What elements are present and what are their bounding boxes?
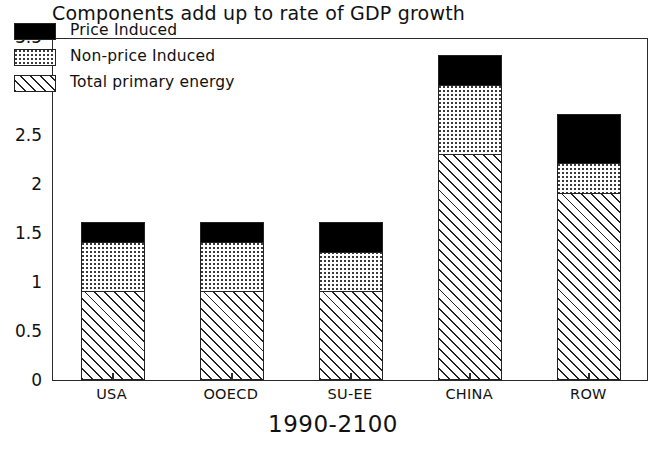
- bar-segment[interactable]: [200, 242, 264, 292]
- bar-group[interactable]: [319, 37, 383, 380]
- bar-segment[interactable]: [319, 291, 383, 380]
- bar-segment[interactable]: [557, 163, 621, 194]
- bar-segment[interactable]: [438, 85, 502, 155]
- bar-group[interactable]: [438, 37, 502, 380]
- x-axis-category-label: USA: [96, 386, 127, 402]
- legend-swatch-icon: [14, 49, 56, 66]
- legend-item-label: Non-price Induced: [70, 47, 215, 65]
- x-axis-category-label: ROW: [570, 386, 607, 402]
- x-axis-tick-mark: [588, 373, 590, 380]
- bar-segment[interactable]: [81, 242, 145, 292]
- bar-segment[interactable]: [557, 193, 621, 380]
- y-axis-tick-label: 2.5: [15, 125, 42, 145]
- y-axis-tick-label: 0: [31, 370, 42, 390]
- bar-segment[interactable]: [200, 291, 264, 380]
- chart-figure: Components add up to rate of GDP growth …: [0, 0, 666, 457]
- bar-segment[interactable]: [319, 251, 383, 291]
- y-axis-tick-label: 0.5: [15, 321, 42, 341]
- x-axis-tick-mark: [469, 373, 471, 380]
- bar-segment[interactable]: [81, 291, 145, 380]
- y-axis-tick-label: 1.5: [15, 223, 42, 243]
- y-axis-tick-label: 2: [31, 174, 42, 194]
- x-axis-tick-mark: [112, 373, 114, 380]
- bar-group[interactable]: [557, 37, 621, 380]
- bar-segment[interactable]: [438, 55, 502, 86]
- legend-item-label: Price Induced: [70, 21, 177, 39]
- x-axis-category-label: OOECD: [203, 386, 258, 402]
- y-axis-tick-label: 1: [31, 272, 42, 292]
- bar-segment[interactable]: [438, 153, 502, 380]
- bar-segment[interactable]: [319, 222, 383, 253]
- bar-segment[interactable]: [200, 222, 264, 243]
- bar-segment[interactable]: [557, 114, 621, 164]
- x-axis-tick-mark: [231, 373, 233, 380]
- x-axis-category-label: SU-EE: [328, 386, 373, 402]
- x-axis-label: 1990-2100: [0, 411, 666, 437]
- x-axis-category-label: CHINA: [445, 386, 493, 402]
- legend-swatch-icon: [14, 23, 56, 40]
- x-axis-tick-mark: [350, 373, 352, 380]
- bar-segment[interactable]: [81, 222, 145, 243]
- legend-item-label: Total primary energy: [70, 73, 235, 91]
- legend-swatch-icon: [14, 75, 56, 92]
